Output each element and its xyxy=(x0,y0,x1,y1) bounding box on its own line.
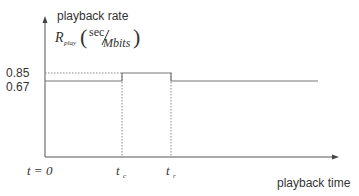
y-tick-067: 0.67 xyxy=(6,80,30,94)
playback-rate-curve xyxy=(45,73,318,81)
x-tick-origin: t = 0 xyxy=(27,163,53,178)
playback-rate-diagram: playback rate R play ( sec Mbits ) 0.85 … xyxy=(0,0,359,196)
svg-text:r: r xyxy=(173,172,176,180)
svg-text:t: t xyxy=(116,163,120,178)
svg-text:c: c xyxy=(123,172,127,180)
svg-text:(: ( xyxy=(80,24,87,49)
x-axis-arrow-icon xyxy=(332,155,339,160)
svg-text:R: R xyxy=(54,30,64,45)
x-axis-label: playback time xyxy=(277,176,351,190)
svg-text:Mbits: Mbits xyxy=(102,36,131,50)
svg-text:t: t xyxy=(166,163,170,178)
x-tick-tr: t r xyxy=(166,163,176,180)
y-axis-label: playback rate xyxy=(57,9,129,23)
svg-text:): ) xyxy=(133,24,140,49)
rate-unit-formula: R play ( sec Mbits ) xyxy=(54,24,140,50)
y-axis-arrow-icon xyxy=(43,16,48,23)
y-tick-085: 0.85 xyxy=(6,66,30,80)
svg-text:play: play xyxy=(63,39,77,47)
x-tick-tc: t c xyxy=(116,163,127,180)
